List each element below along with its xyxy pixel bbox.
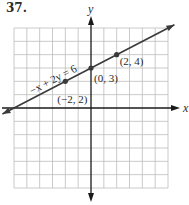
point-label: (0, 3)	[94, 72, 118, 85]
x-axis-label: x	[182, 101, 189, 115]
line-arrow-right-icon	[166, 25, 174, 31]
labels: (−2, 2)(0, 3)(2, 4)−x + 2y = 6	[27, 55, 143, 107]
data-point	[88, 65, 93, 70]
problem-number: 37.	[6, 1, 27, 15]
x-axis-arrow-icon	[171, 105, 180, 111]
point-label: (2, 4)	[120, 55, 144, 68]
data-point	[114, 52, 119, 57]
series-line	[2, 25, 174, 114]
point-label: (−2, 2)	[57, 93, 87, 106]
lines	[2, 25, 174, 114]
equation-label: −x + 2y = 6	[27, 62, 79, 97]
y-axis-label: y	[87, 2, 94, 16]
y-axis-arrow-down-icon	[88, 193, 94, 202]
y-axis-arrow-up-icon	[88, 16, 94, 25]
coordinate-plane: xy (−2, 2)(0, 3)(2, 4)−x + 2y = 6	[0, 0, 189, 205]
graph-figure: 37. xy (−2, 2)(0, 3)(2, 4)−x + 2y = 6	[0, 0, 189, 205]
